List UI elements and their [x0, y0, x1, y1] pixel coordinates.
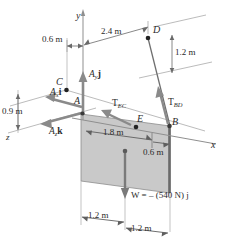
- force-label-az-unitvector: k: [57, 126, 62, 136]
- force-label-ax-symbol: A: [50, 87, 56, 97]
- axis-label-y: y: [76, 11, 80, 21]
- force-label-ax-unitvector: i: [59, 87, 62, 97]
- force-label-az: Azk: [49, 127, 63, 137]
- point-label-b: B: [172, 117, 178, 127]
- dimension-label-2-4: 2.4 m: [101, 27, 122, 36]
- axis-label-z: z: [6, 133, 10, 142]
- dim-arrow-0-9-top: [16, 94, 21, 99]
- point-marker-a: [80, 111, 84, 115]
- dim-arrow-0-6-top-right: [78, 44, 83, 49]
- point-label-c: C: [56, 77, 63, 87]
- force-label-ay: Ayj: [89, 70, 101, 80]
- point-label-e: E: [137, 114, 143, 124]
- dim-arrow-2-4-left: [84, 39, 90, 45]
- point-marker-d: [146, 36, 151, 41]
- point-marker-c: [64, 88, 69, 93]
- force-arrow-ay-head: [79, 71, 88, 82]
- axis-label-x: x: [211, 140, 215, 150]
- force-arrow-weight-head: [121, 188, 129, 199]
- point-marker-e: [134, 125, 139, 130]
- dim-arrow-0-9-bottom: [16, 125, 21, 130]
- axis-y-arrowhead: [81, 9, 85, 16]
- force-label-az-symbol: A: [49, 126, 55, 136]
- dim-arrow-2-4-right: [142, 27, 148, 33]
- force-label-az-subscript: z: [55, 130, 58, 137]
- dimension-label-0-6-top: 0.6 m: [42, 35, 63, 44]
- point-marker-centroid: [123, 149, 128, 154]
- point-label-a: A: [74, 96, 80, 106]
- force-label-tec: TEC: [112, 99, 126, 109]
- reference-line-d-bottom: [139, 62, 212, 78]
- diagram-canvas: [0, 0, 229, 249]
- force-label-ay-symbol: A: [89, 69, 95, 79]
- dimension-label-0-6-plate: 0.6 m: [143, 148, 164, 157]
- point-label-d: D: [153, 25, 160, 35]
- reference-line-d-top: [153, 15, 206, 27]
- force-label-ay-subscript: y: [95, 73, 98, 80]
- force-arrow-az-shaft: [48, 113, 82, 122]
- dimension-label-1-2-right: 1.2 m: [175, 48, 196, 57]
- dimension-label-1-8: 1.8 m: [103, 128, 124, 137]
- free-body-diagram-figure: y x z C D A E B 0.6 m 2.4 m 1.2 m 0.9 m …: [0, 0, 229, 249]
- force-label-tbd: TBD: [168, 98, 182, 108]
- force-label-tbd-subscript: BD: [174, 101, 183, 108]
- dim-arrow-1-2-right-top: [170, 35, 175, 40]
- dimension-label-1-2-bottom-right: 1.2 m: [131, 224, 152, 233]
- force-label-ax: Axi: [50, 88, 61, 98]
- dim-arrow-0-6-top-left: [67, 44, 72, 49]
- force-label-tec-subscript: EC: [118, 102, 126, 109]
- force-label-ay-unitvector: j: [98, 69, 101, 79]
- force-label-weight: W = – (540 N) j: [131, 191, 189, 200]
- dimension-label-0-9: 0.9 m: [2, 107, 23, 116]
- cable-db: [148, 38, 170, 126]
- dimension-label-1-2-bottom-left: 1.2 m: [88, 211, 109, 220]
- force-label-tbd-symbol: T: [168, 97, 174, 107]
- force-arrow-tbd-shaft: [160, 93, 168, 124]
- force-label-tec-symbol: T: [112, 98, 118, 108]
- force-label-ax-subscript: x: [56, 91, 59, 98]
